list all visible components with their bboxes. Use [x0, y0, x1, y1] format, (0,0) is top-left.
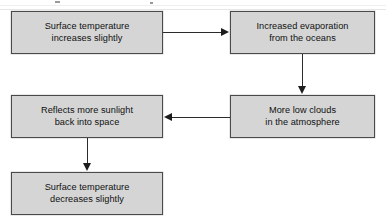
node-surface-temperature-increases[interactable]: Surface temperature increases slightly: [11, 11, 163, 54]
node-surface-temperature-decreases[interactable]: Surface temperature decreases slightly: [11, 172, 163, 215]
connector-line: [87, 138, 88, 164]
arrowhead-down-icon: [83, 163, 91, 171]
arrowhead-right-icon: [221, 28, 229, 36]
arrowhead-down-icon: [298, 86, 306, 94]
scan-artifact-line: [0, 9, 386, 10]
scan-artifact-line: [0, 5, 386, 6]
node-increased-evaporation[interactable]: Increased evaporation from the oceans: [230, 11, 375, 54]
arrowhead-left-icon: [164, 113, 172, 121]
node-more-low-clouds[interactable]: More low clouds in the atmosphere: [230, 95, 375, 138]
connector-line: [302, 54, 303, 87]
flowchart-canvas: Surface temperature increases slightly I…: [0, 0, 386, 223]
scan-artifact-speck: [55, 1, 60, 3]
node-reflects-more-sunlight[interactable]: Reflects more sunlight back into space: [11, 95, 163, 138]
scan-artifact-speck: [150, 2, 153, 4]
connector-line: [172, 117, 230, 118]
connector-line: [163, 32, 222, 33]
